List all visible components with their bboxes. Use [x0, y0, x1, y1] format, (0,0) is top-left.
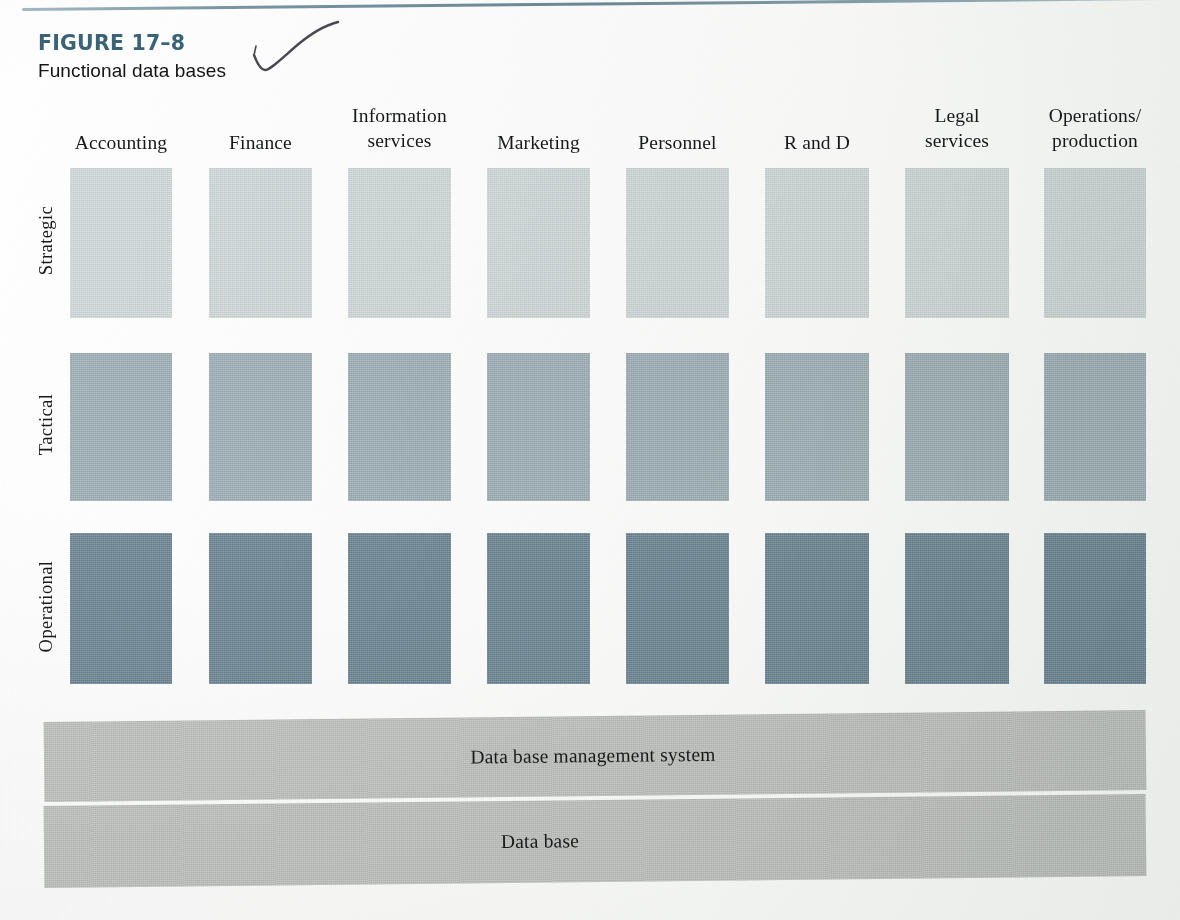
- figure-title: Functional data bases: [38, 59, 226, 83]
- row-label-strategic: Strategic: [36, 146, 57, 336]
- cell-tactical-legal-services[interactable]: [905, 353, 1009, 501]
- cell-tactical-accounting[interactable]: [70, 353, 172, 501]
- column-header-line: Information: [326, 104, 473, 129]
- column-header-line: services: [326, 129, 473, 154]
- column-header-legal-services: Legalservices: [883, 104, 1031, 153]
- cell-strategic-operations-production[interactable]: [1044, 168, 1146, 318]
- row-label-tactical: Tactical: [36, 331, 57, 519]
- column-header-line: R and D: [743, 131, 891, 156]
- column-header-operations-production: Operations/production: [1022, 104, 1168, 153]
- cell-operational-marketing[interactable]: [487, 533, 590, 684]
- cell-tactical-information-services[interactable]: [348, 353, 451, 501]
- cell-tactical-finance[interactable]: [209, 353, 312, 501]
- column-header-line: Personnel: [604, 131, 751, 156]
- column-header-personnel: Personnel: [604, 131, 751, 156]
- figure-caption: FIGURE 17–8 Functional data bases: [38, 30, 226, 84]
- column-header-r-and-d: R and D: [743, 131, 891, 156]
- cell-tactical-personnel[interactable]: [626, 353, 729, 501]
- cell-strategic-accounting[interactable]: [70, 168, 172, 318]
- layer-bar-dbms-label: Data base management system: [470, 744, 716, 769]
- cell-strategic-finance[interactable]: [209, 168, 312, 318]
- cell-operational-accounting[interactable]: [70, 533, 172, 684]
- figure-page: FIGURE 17–8 Functional data bases Accoun…: [0, 0, 1180, 920]
- column-header-line: Operations/: [1022, 104, 1168, 129]
- column-header-line: production: [1022, 129, 1168, 154]
- column-header-line: Legal: [883, 104, 1031, 129]
- layer-bar-database[interactable]: Data base: [44, 794, 1147, 888]
- cell-strategic-information-services[interactable]: [348, 168, 451, 318]
- figure-number: FIGURE 17–8: [38, 30, 226, 56]
- cell-operational-r-and-d[interactable]: [765, 533, 869, 684]
- cell-strategic-r-and-d[interactable]: [765, 168, 869, 318]
- cell-tactical-marketing[interactable]: [487, 353, 590, 501]
- column-header-line: services: [883, 129, 1031, 154]
- cell-operational-personnel[interactable]: [626, 533, 729, 684]
- column-header-finance: Finance: [187, 131, 334, 156]
- cell-operational-operations-production[interactable]: [1044, 533, 1146, 684]
- row-label-operational: Operational: [36, 511, 57, 702]
- cell-tactical-operations-production[interactable]: [1044, 353, 1146, 501]
- cell-tactical-r-and-d[interactable]: [765, 353, 869, 501]
- column-header-marketing: Marketing: [465, 131, 612, 156]
- cell-strategic-marketing[interactable]: [487, 168, 590, 318]
- column-header-accounting: Accounting: [48, 131, 194, 156]
- cell-strategic-personnel[interactable]: [626, 168, 729, 318]
- column-header-line: Marketing: [465, 131, 612, 156]
- page-header-rule: [22, 0, 1172, 11]
- column-header-line: Finance: [187, 131, 334, 156]
- layer-bar-database-label: Data base: [501, 830, 579, 853]
- cell-strategic-legal-services[interactable]: [905, 168, 1009, 318]
- cell-operational-legal-services[interactable]: [905, 533, 1009, 684]
- handwritten-check-mark-icon: [246, 20, 356, 82]
- column-header-information-services: Informationservices: [326, 104, 473, 153]
- layer-bar-dbms[interactable]: Data base management system: [44, 710, 1147, 802]
- column-header-line: Accounting: [48, 131, 194, 156]
- cell-operational-finance[interactable]: [209, 533, 312, 684]
- cell-operational-information-services[interactable]: [348, 533, 451, 684]
